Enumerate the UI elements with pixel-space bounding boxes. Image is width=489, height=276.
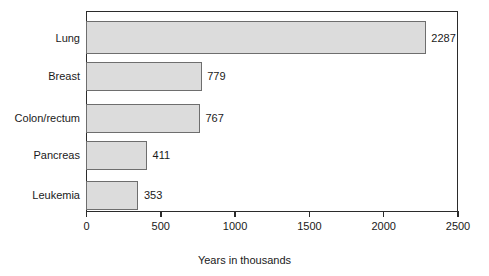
x-tick-label-0: 0 (83, 221, 89, 232)
x-tick-mark-2000 (383, 211, 385, 217)
bar-value-colon-rectum: 767 (205, 113, 223, 124)
bar-leukemia (86, 181, 138, 210)
x-tick-label-2000: 2000 (371, 221, 395, 232)
category-label-colon-rectum: Colon/rectum (15, 113, 80, 124)
x-axis-title: Years in thousands (0, 255, 489, 266)
bar-lung (86, 21, 426, 54)
x-tick-label-2500: 2500 (446, 221, 470, 232)
bar-value-breast: 779 (207, 71, 225, 82)
x-tick-label-500: 500 (152, 221, 170, 232)
bar-chart: 2287 Lung 779 Breast 767 Colon/rectum 41… (0, 0, 489, 276)
category-label-leukemia: Leukemia (32, 190, 80, 201)
x-tick-mark-1000 (234, 211, 236, 217)
category-label-lung: Lung (56, 33, 80, 44)
x-tick-label-1500: 1500 (297, 221, 321, 232)
bar-value-lung: 2287 (431, 33, 455, 44)
bar-colon-rectum (86, 104, 200, 133)
bar-value-leukemia: 353 (144, 190, 162, 201)
bar-pancreas (86, 141, 147, 170)
x-tick-mark-500 (160, 211, 162, 217)
bar-value-pancreas: 411 (153, 150, 171, 161)
x-tick-label-1000: 1000 (223, 221, 247, 232)
x-tick-mark-0 (86, 211, 88, 217)
category-label-pancreas: Pancreas (34, 150, 80, 161)
bar-breast (86, 62, 202, 91)
x-tick-mark-1500 (309, 211, 311, 217)
category-label-breast: Breast (48, 71, 80, 82)
bars-layer: 2287 Lung 779 Breast 767 Colon/rectum 41… (0, 0, 489, 276)
x-tick-mark-2500 (457, 211, 459, 217)
